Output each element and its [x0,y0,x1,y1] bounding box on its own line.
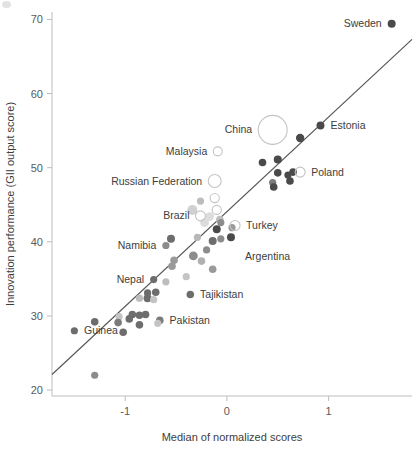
point-label-nepal: Nepal [117,273,144,285]
data-point[interactable] [150,276,157,283]
data-point-malaysia[interactable] [213,147,222,156]
y-tick-label: 60 [31,88,43,100]
data-point[interactable] [296,134,304,142]
data-point[interactable] [167,235,175,243]
point-label-turkey: Turkey [246,219,278,231]
data-point[interactable] [142,311,150,319]
data-point[interactable] [213,225,221,233]
data-point[interactable] [212,205,221,214]
data-point[interactable] [274,169,282,177]
data-point[interactable] [187,291,195,299]
data-point[interactable] [203,246,210,253]
point-label-russian-federation: Russian Federation [111,175,202,187]
data-point[interactable] [286,177,294,185]
data-point[interactable] [162,278,169,285]
point-label-guinea: Guinea [84,324,118,336]
data-point[interactable] [168,262,176,270]
y-tick-label: 50 [31,162,43,174]
x-axis-title: Median of normalized scores [162,431,303,443]
data-point[interactable] [217,219,224,226]
point-label-argentina: Argentina [245,250,290,262]
point-label-brazil: Brazil [163,209,189,221]
data-point-china[interactable] [258,115,287,144]
data-point-russian-federation[interactable] [208,175,221,188]
y-tick-label: 30 [31,310,43,322]
data-point[interactable] [183,273,190,280]
data-point[interactable] [227,233,235,241]
scatter-chart: 203040506070-101Median of normalized sco… [0,0,417,451]
point-label-namibia: Namibia [118,239,157,251]
data-point[interactable] [154,320,161,327]
data-point[interactable] [217,235,224,242]
data-point[interactable] [189,251,198,260]
y-tick-label: 70 [31,13,43,25]
data-point[interactable] [210,193,219,202]
data-point[interactable] [150,296,157,303]
x-tick-label: 0 [224,405,230,417]
data-point[interactable] [209,237,217,245]
data-point[interactable] [259,159,267,167]
data-point[interactable] [316,121,324,129]
data-point[interactable] [209,265,217,273]
point-label-china: China [225,123,253,135]
y-tick-label: 40 [31,236,43,248]
data-point-brazil[interactable] [195,211,205,221]
data-point[interactable] [388,20,396,28]
data-point[interactable] [136,321,144,329]
data-point[interactable] [270,183,278,191]
point-label-poland: Poland [311,166,344,178]
x-tick-label: 1 [326,405,332,417]
y-tick-label: 20 [31,384,43,396]
data-point[interactable] [152,288,160,296]
data-point[interactable] [274,156,282,164]
point-label-tajikistan: Tajikistan [200,288,243,300]
data-point[interactable] [197,197,204,204]
point-label-pakistan: Pakistan [170,314,210,326]
plot-area: 203040506070-101Median of normalized sco… [0,0,417,451]
data-point[interactable] [136,295,143,302]
point-label-estonia: Estonia [330,119,365,131]
x-tick-label: -1 [120,405,130,417]
point-label-malaysia: Malaysia [166,145,208,157]
y-axis-title: Innovation performance (GII output score… [4,102,16,306]
data-point[interactable] [71,327,78,334]
data-point[interactable] [119,328,127,336]
data-point[interactable] [194,234,201,241]
data-point[interactable] [198,257,206,265]
data-point[interactable] [91,372,98,379]
data-point[interactable] [125,315,133,323]
point-label-sweden: Sweden [344,17,382,29]
data-point[interactable] [162,242,169,249]
